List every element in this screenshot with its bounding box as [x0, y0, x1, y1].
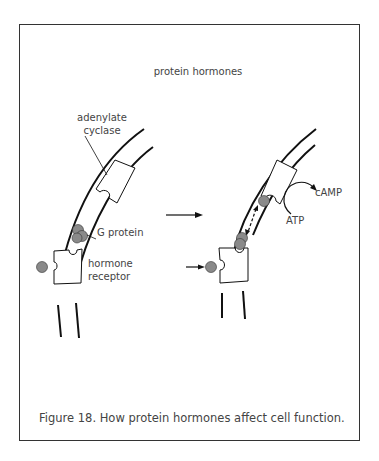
adenylate-leader-line [85, 136, 107, 175]
label-receptor-1: hormone [88, 258, 133, 269]
label-g-protein: G protein [97, 227, 143, 238]
g-protein-activated [259, 196, 270, 207]
g-protein-left [72, 225, 88, 244]
atp-to-camp-arrow [284, 182, 317, 214]
label-adenylate-1: adenylate [77, 112, 127, 123]
hormone-arrow [186, 265, 205, 270]
hormone-molecule-bound [206, 262, 217, 273]
hormone-molecule-left [37, 262, 48, 273]
label-atp: ATP [286, 215, 304, 226]
g-protein-movement-arrow [245, 205, 258, 236]
figure-caption: Figure 18. How protein hormones affect c… [39, 411, 345, 425]
hormone-receptor-right [219, 248, 248, 283]
diagram: protein hormones adenylate cyclase G pro… [0, 0, 379, 461]
label-camp: cAMP [315, 187, 342, 198]
figure-title: protein hormones [154, 66, 243, 77]
transition-arrow [166, 212, 203, 218]
label-receptor-2: receptor [88, 271, 131, 282]
hormone-receptor-left [54, 249, 82, 284]
g-protein-right [235, 233, 248, 250]
label-adenylate-2: cyclase [83, 125, 120, 136]
